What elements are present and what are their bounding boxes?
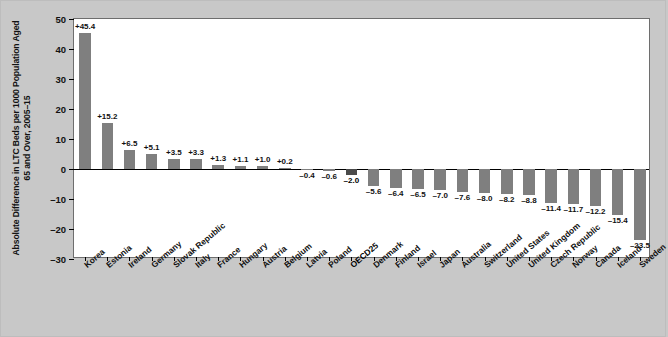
bar-value-label: +3.5	[166, 148, 182, 157]
bar-value-label: –8.8	[521, 196, 537, 205]
y-tick	[69, 49, 74, 50]
bar[interactable]	[102, 123, 114, 169]
bar[interactable]	[612, 169, 624, 215]
bar-value-label: +45.4	[75, 22, 95, 31]
bar-value-label: –8.0	[477, 194, 493, 203]
y-axis-title: Absolute Difference in LTC Beds per 1000…	[2, 18, 42, 258]
bar[interactable]	[545, 169, 557, 203]
y-tick-label: –10	[50, 194, 66, 205]
bar[interactable]	[190, 159, 202, 169]
y-tick-label: 40	[55, 44, 66, 55]
y-tick-label: 10	[55, 134, 66, 145]
bar-value-label: +5.1	[144, 143, 160, 152]
bar-value-label: –15.4	[608, 216, 628, 225]
bar-value-label: –7.6	[455, 193, 471, 202]
bar[interactable]	[568, 169, 580, 204]
bar[interactable]	[323, 169, 335, 171]
bar[interactable]	[590, 169, 602, 206]
bar[interactable]	[634, 169, 646, 240]
plot-area: 50403020100–10–20–30 +45.4+15.2+6.5+5.1+…	[73, 18, 650, 258]
y-tick	[69, 79, 74, 80]
bar[interactable]	[279, 168, 291, 169]
bar-value-label: +15.2	[97, 112, 117, 121]
bar-value-label: –6.5	[410, 190, 426, 199]
bar-value-label: –11.4	[541, 204, 561, 213]
y-tick-label: 50	[55, 14, 66, 25]
bar[interactable]	[523, 169, 535, 195]
y-tick-label: –20	[50, 224, 66, 235]
y-tick-label: 0	[61, 164, 66, 175]
y-tick	[69, 109, 74, 110]
y-tick	[69, 229, 74, 230]
bar-value-label: –7.0	[432, 191, 448, 200]
bar-value-label: –2.0	[344, 176, 360, 185]
y-tick-label: 20	[55, 104, 66, 115]
y-tick	[69, 139, 74, 140]
bar-value-label: –11.7	[564, 205, 584, 214]
y-tick	[69, 169, 74, 170]
bar[interactable]	[390, 169, 402, 188]
bar[interactable]	[501, 169, 513, 194]
bar[interactable]	[257, 166, 269, 169]
y-tick	[69, 199, 74, 200]
bar[interactable]	[368, 169, 380, 186]
bar[interactable]	[79, 33, 91, 169]
bar[interactable]	[479, 169, 491, 193]
bar-value-label: +3.3	[188, 148, 204, 157]
bar-value-label: –0.6	[321, 172, 337, 181]
bar[interactable]	[212, 165, 224, 169]
y-tick-label: –30	[50, 254, 66, 265]
y-tick-label: 30	[55, 74, 66, 85]
bar[interactable]	[146, 154, 158, 169]
bar[interactable]	[412, 169, 424, 189]
bar[interactable]	[457, 169, 469, 192]
bar[interactable]	[235, 166, 247, 169]
bar-value-label: –12.2	[586, 207, 606, 216]
bar[interactable]	[124, 150, 136, 170]
bar-value-label: –6.4	[388, 189, 404, 198]
bar-value-label: –0.4	[299, 171, 315, 180]
zero-baseline	[74, 169, 649, 170]
bar-value-label: +1.1	[233, 155, 249, 164]
bar-value-label: +0.2	[277, 157, 293, 166]
bar[interactable]	[301, 169, 313, 170]
y-tick	[69, 19, 74, 20]
bar[interactable]	[168, 159, 180, 170]
bar[interactable]	[434, 169, 446, 190]
bar-value-label: +6.5	[122, 139, 138, 148]
bar-value-label: +1.0	[255, 155, 271, 164]
bar-value-label: –5.6	[366, 187, 382, 196]
bar[interactable]	[346, 169, 358, 175]
bar-value-label: +1.3	[210, 154, 226, 163]
y-tick	[69, 259, 74, 260]
bar-value-label: –8.2	[499, 195, 515, 204]
